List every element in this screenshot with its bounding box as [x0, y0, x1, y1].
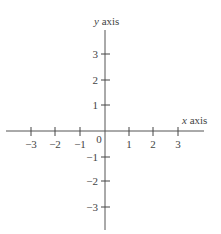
- x-tick-label: −2: [49, 138, 61, 150]
- coordinate-plane: −3 −2 −1 1 2 3 0 3 2 1 −1 −2 −3 y axis x…: [0, 0, 221, 234]
- y-tick-label: −3: [86, 201, 98, 213]
- x-tick-label: 1: [126, 138, 132, 150]
- y-tick-label: 2: [93, 74, 99, 86]
- y-axis-var: y: [93, 15, 99, 27]
- x-axis-title: x axis: [181, 114, 207, 126]
- y-axis-word: axis: [102, 15, 120, 27]
- y-axis-title: y axis: [93, 15, 119, 27]
- x-axis-word: axis: [190, 114, 208, 126]
- y-tick-label: 1: [93, 99, 99, 111]
- y-tick-label: −1: [86, 151, 98, 163]
- x-tick-label: −3: [25, 138, 37, 150]
- x-tick-label: −1: [74, 138, 86, 150]
- y-tick-label: 3: [93, 48, 99, 60]
- x-tick-label: 3: [175, 138, 181, 150]
- x-tick-label: 2: [150, 138, 156, 150]
- y-tick-label: −2: [86, 175, 98, 187]
- origin-label: 0: [96, 133, 102, 145]
- x-axis-var: x: [181, 114, 187, 126]
